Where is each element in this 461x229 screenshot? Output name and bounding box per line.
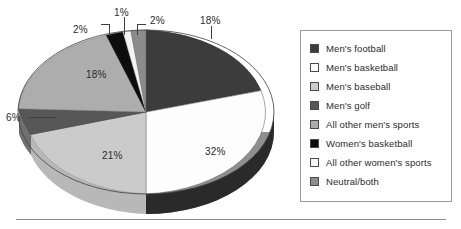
- legend-item-label: Neutral/both: [326, 176, 379, 187]
- legend-swatch-icon: [310, 101, 319, 110]
- legend-swatch-icon: [310, 177, 319, 186]
- legend-item-label: All other women's sports: [326, 157, 432, 168]
- pie-chart-figure: 2% 1% 2% 18% 18% 6% 21% 32% Men's footba…: [0, 0, 461, 229]
- legend-item-womens-basketball[interactable]: Women's basketball: [301, 134, 451, 153]
- legend-swatch-icon: [310, 82, 319, 91]
- legend-item-label: Men's basketball: [326, 62, 398, 73]
- label-mens-baseball: 21%: [102, 150, 123, 161]
- leader-line-golf-h: [29, 117, 56, 118]
- chart-legend: Men's football Men's basketball Men's ba…: [300, 30, 452, 202]
- legend-item-label: Men's football: [326, 43, 386, 54]
- label-mens-golf: 6%: [6, 112, 21, 123]
- legend-item-label: Women's basketball: [326, 138, 412, 149]
- leader-line-womens-basketball-h: [101, 24, 110, 25]
- legend-swatch-icon: [310, 44, 319, 53]
- leader-line-all-other-womens-v: [124, 17, 125, 35]
- chart-area: 2% 1% 2% 18% 18% 6% 21% 32%: [0, 0, 292, 214]
- legend-item-neutral-both[interactable]: Neutral/both: [301, 172, 451, 191]
- label-neutral-both: 2%: [150, 15, 165, 26]
- legend-item-all-other-mens-sports[interactable]: All other men's sports: [301, 115, 451, 134]
- legend-item-label: Men's golf: [326, 100, 370, 111]
- pie-chart-svg: [0, 0, 292, 214]
- label-mens-basketball: 32%: [205, 146, 226, 157]
- label-all-other-mens: 18%: [86, 69, 107, 80]
- legend-list: Men's football Men's basketball Men's ba…: [301, 31, 451, 191]
- leader-line-womens-basketball-v: [109, 24, 110, 36]
- leader-line-neutral-v: [137, 24, 138, 35]
- legend-item-mens-baseball[interactable]: Men's baseball: [301, 77, 451, 96]
- bottom-divider: [16, 219, 446, 220]
- leader-line-football-v: [211, 26, 212, 39]
- legend-item-label: Men's baseball: [326, 81, 390, 92]
- legend-item-mens-basketball[interactable]: Men's basketball: [301, 58, 451, 77]
- legend-swatch-icon: [310, 158, 319, 167]
- legend-item-mens-golf[interactable]: Men's golf: [301, 96, 451, 115]
- legend-item-label: All other men's sports: [326, 119, 419, 130]
- leader-line-neutral-h: [137, 24, 146, 25]
- label-womens-basketball: 2%: [73, 24, 88, 35]
- label-all-other-womens: 1%: [114, 7, 129, 18]
- legend-item-mens-football[interactable]: Men's football: [301, 39, 451, 58]
- legend-swatch-icon: [310, 63, 319, 72]
- legend-swatch-icon: [310, 120, 319, 129]
- label-mens-football: 18%: [200, 15, 221, 26]
- legend-swatch-icon: [310, 139, 319, 148]
- legend-item-all-other-womens-sports[interactable]: All other women's sports: [301, 153, 451, 172]
